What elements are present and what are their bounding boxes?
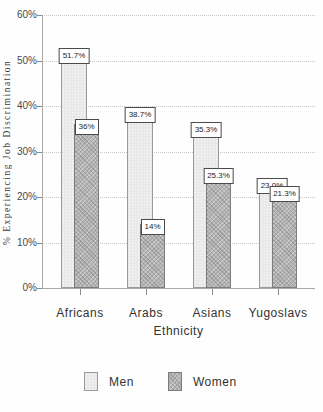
x-tick-yugoslavs [278,289,279,295]
y-axis-line [42,15,43,288]
value-label-women-arabs: 14% [140,219,164,235]
y-tick-30 [37,152,42,153]
value-label-women-asians: 25.3% [203,168,234,184]
x-tick-asians [212,289,213,295]
legend-label-men: Men [109,375,134,389]
y-tick-20 [37,197,42,198]
bar-chart: % Experiencing Job Discrimination Ethnic… [0,0,323,412]
y-tick-label-40: 40% [0,100,37,112]
value-label-men-asians: 35.3% [191,122,222,138]
y-tick-label-60: 60% [0,9,37,21]
x-axis-title: Ethnicity [42,324,315,338]
bar-women-asians [206,173,231,288]
bar-women-africans [74,124,99,288]
value-label-women-africans: 36% [74,119,98,135]
women-legend-swatch [168,372,182,391]
y-tick-0 [37,288,42,289]
y-tick-label-30: 30% [0,146,37,158]
legend-item-men: Men [84,372,134,391]
men-legend-swatch [84,372,98,391]
x-tick-africans [80,289,81,295]
x-axis-line [42,288,315,289]
y-tick-50 [37,61,42,62]
y-tick-60 [37,15,42,16]
y-tick-10 [37,243,42,244]
value-label-men-africans: 51.7% [59,48,90,64]
y-tick-label-50: 50% [0,55,37,67]
value-label-men-arabs: 38.7% [125,107,156,123]
legend-label-women: Women [193,375,237,389]
bar-women-yugoslavs [272,191,297,288]
x-tick-arabs [146,289,147,295]
value-label-women-yugoslavs: 21.3% [269,186,300,202]
y-tick-label-20: 20% [0,191,37,203]
y-tick-label-10: 10% [0,237,37,249]
category-label-yugoslavs: Yugoslavs [236,306,320,320]
y-tick-label-0: 0% [0,282,37,294]
legend-item-women: Women [168,372,237,391]
gridline-60 [42,15,315,16]
y-tick-40 [37,106,42,107]
